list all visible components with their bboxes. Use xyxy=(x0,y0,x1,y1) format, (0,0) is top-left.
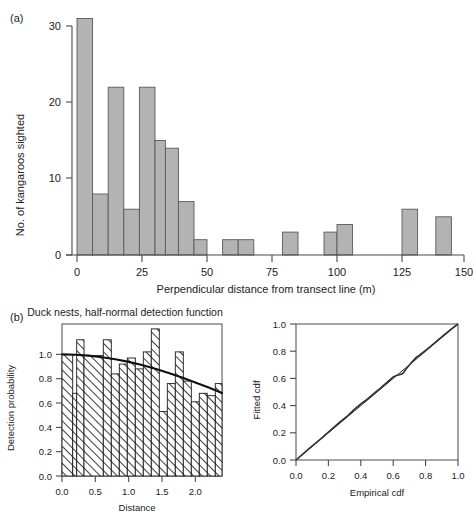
chart-a-bars xyxy=(77,19,451,256)
chart-b-right-xtick-0.8: 0.8 xyxy=(419,470,432,481)
histogram-bar xyxy=(238,240,254,255)
detection-bar xyxy=(143,352,151,476)
chart-b-right-xtick-1.0: 1.0 xyxy=(451,470,464,481)
chart-b-right-xtick-0.4: 0.4 xyxy=(354,470,367,481)
detection-bar xyxy=(73,393,77,476)
chart-a-xtick-50: 50 xyxy=(201,266,213,278)
kangaroo-histogram-chart: No. of kangaroos sighted 0 10 20 30 xyxy=(0,0,476,300)
chart-b-right-y-axis: 0.0 0.2 0.4 0.6 0.8 1.0 xyxy=(273,319,296,466)
detection-bar xyxy=(191,402,199,476)
chart-b-right-xtick-0.6: 0.6 xyxy=(387,470,400,481)
chart-a-xtick-25: 25 xyxy=(136,266,148,278)
chart-b-right-ytick-0.2: 0.2 xyxy=(273,427,286,438)
chart-b-right-y-axis-title: Fitted cdf xyxy=(251,380,262,419)
chart-b-right-ytick-0.0: 0.0 xyxy=(273,455,286,466)
chart-a-x-axis: 0 25 50 75 100 125 150 xyxy=(66,255,473,278)
chart-b-left-xtick-2.0: 2.0 xyxy=(189,486,202,497)
chart-a-y-axis: 0 10 20 30 xyxy=(49,20,72,261)
chart-a-ytick-20: 20 xyxy=(49,96,61,108)
chart-b-right-ytick-0.8: 0.8 xyxy=(273,346,286,357)
detection-bar xyxy=(127,358,135,476)
histogram-bar xyxy=(155,141,165,256)
chart-b-left-x-axis-title: Distance xyxy=(119,502,156,513)
detection-bar xyxy=(199,393,207,476)
chart-a-xtick-125: 125 xyxy=(393,266,411,278)
detection-bar xyxy=(103,340,111,476)
histogram-bar xyxy=(436,217,452,255)
chart-b-left-x-axis: 0.0 0.5 1.0 1.5 2.0 xyxy=(55,476,202,497)
chart-b-right-xtick-0.2: 0.2 xyxy=(322,470,335,481)
chart-b-right-ytick-1.0: 1.0 xyxy=(273,319,286,330)
chart-b-right-x-axis-title: Empirical cdf xyxy=(350,487,405,498)
detection-bar xyxy=(207,396,215,476)
chart-a-ytick-10: 10 xyxy=(49,172,61,184)
chart-b-left-y-axis-title: Detection probability xyxy=(5,365,16,451)
histogram-bar xyxy=(108,87,124,255)
histogram-bar xyxy=(124,209,140,255)
chart-b-left-ytick-0.0: 0.0 xyxy=(39,471,52,482)
chart-b-left-ytick-0.4: 0.4 xyxy=(39,422,52,433)
detection-bar xyxy=(111,374,119,476)
histogram-bar xyxy=(165,148,178,255)
histogram-bar xyxy=(337,225,353,256)
histogram-bar xyxy=(77,19,93,256)
histogram-bar xyxy=(324,232,337,255)
histogram-bar xyxy=(139,87,155,255)
chart-a-xtick-0: 0 xyxy=(74,266,80,278)
histogram-bar xyxy=(282,232,298,255)
detection-bar xyxy=(183,381,191,476)
chart-b-left-xtick-0.0: 0.0 xyxy=(55,486,68,497)
figure-container: (a) No. of kangaroos sighted 0 10 20 30 xyxy=(0,0,476,516)
chart-b-right-ytick-0.6: 0.6 xyxy=(273,373,286,384)
chart-b-left-xtick-1.0: 1.0 xyxy=(122,486,135,497)
detection-bar xyxy=(159,412,167,476)
chart-b-left-ytick-0.2: 0.2 xyxy=(39,446,52,457)
histogram-bar xyxy=(178,202,194,255)
histogram-bar xyxy=(93,194,109,255)
histogram-bar xyxy=(223,240,239,255)
chart-a-xtick-150: 150 xyxy=(455,266,473,278)
detection-bar xyxy=(62,354,73,476)
detection-bar xyxy=(167,384,175,476)
chart-b-right-xtick-0.0: 0.0 xyxy=(289,470,302,481)
chart-b-left-y-axis: 0.0 0.2 0.4 0.6 0.8 1.0 xyxy=(39,349,62,482)
chart-b-left-title: Duck nests, half-normal detection functi… xyxy=(27,306,223,318)
chart-b-right-ytick-0.4: 0.4 xyxy=(273,400,286,411)
chart-a-xtick-100: 100 xyxy=(328,266,346,278)
detection-bar xyxy=(215,384,222,476)
detection-bar xyxy=(175,352,183,476)
chart-b-left-xtick-0.5: 0.5 xyxy=(89,486,102,497)
histogram-bar xyxy=(402,209,418,255)
chart-a-y-axis-title: No. of kangaroos sighted xyxy=(14,114,26,236)
chart-b-left-ytick-0.6: 0.6 xyxy=(39,398,52,409)
chart-b-left-ytick-0.8: 0.8 xyxy=(39,373,52,384)
detection-bar xyxy=(135,369,143,476)
chart-b-left-bars xyxy=(62,329,222,476)
chart-a-ytick-0: 0 xyxy=(55,249,61,261)
detection-bar xyxy=(84,356,103,476)
detection-bar xyxy=(119,364,127,476)
chart-b-right-x-axis: 0.0 0.2 0.4 0.6 0.8 1.0 xyxy=(289,460,464,481)
qq-cdf-chart: Fitted cdf 0.0 0.2 0.4 0.6 0.8 1.0 xyxy=(236,300,476,516)
detection-bar xyxy=(77,340,84,476)
histogram-bar xyxy=(194,240,207,255)
chart-b-left-ytick-1.0: 1.0 xyxy=(39,349,52,360)
duck-nests-detection-chart: Duck nests, half-normal detection functi… xyxy=(0,300,236,516)
chart-a-x-axis-title: Perpendicular distance from transect lin… xyxy=(157,283,376,295)
chart-a-ytick-30: 30 xyxy=(49,20,61,32)
detection-bar xyxy=(151,329,159,476)
chart-a-xtick-75: 75 xyxy=(266,266,278,278)
chart-b-left-xtick-1.5: 1.5 xyxy=(155,486,168,497)
